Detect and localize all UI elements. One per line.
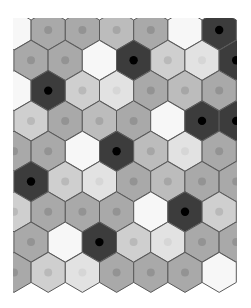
black-dot-icon [95, 238, 103, 246]
center-dot-icon [10, 208, 18, 216]
black-dot-icon [215, 26, 223, 34]
center-dot-icon [164, 178, 172, 186]
center-dot-icon [78, 26, 86, 34]
center-dot-icon [215, 87, 223, 95]
hex-board [0, 0, 251, 308]
center-dot-icon [27, 117, 35, 125]
hex-grid [0, 10, 251, 292]
center-dot-icon [44, 208, 52, 216]
center-dot-icon [130, 238, 138, 246]
center-dot-icon [61, 117, 69, 125]
center-dot-icon [113, 87, 121, 95]
center-dot-icon [78, 208, 86, 216]
center-dot-icon [130, 117, 138, 125]
center-dot-icon [147, 87, 155, 95]
center-dot-icon [78, 268, 86, 276]
center-dot-icon [181, 268, 189, 276]
center-dot-icon [44, 268, 52, 276]
center-dot-icon [147, 147, 155, 155]
center-dot-icon [164, 56, 172, 64]
center-dot-icon [61, 56, 69, 64]
center-dot-icon [27, 56, 35, 64]
black-dot-icon [44, 86, 52, 94]
center-dot-icon [113, 208, 121, 216]
black-dot-icon [112, 147, 120, 155]
black-dot-icon [232, 117, 240, 125]
center-dot-icon [164, 238, 172, 246]
center-dot-icon [95, 178, 103, 186]
center-dot-icon [44, 147, 52, 155]
center-dot-icon [78, 87, 86, 95]
center-dot-icon [130, 178, 138, 186]
center-dot-icon [198, 178, 206, 186]
center-dot-icon [44, 26, 52, 34]
black-dot-icon [181, 208, 189, 216]
center-dot-icon [215, 147, 223, 155]
center-dot-icon [27, 238, 35, 246]
center-dot-icon [113, 26, 121, 34]
center-dot-icon [95, 117, 103, 125]
center-dot-icon [215, 208, 223, 216]
center-dot-icon [113, 268, 121, 276]
black-dot-icon [232, 56, 240, 64]
center-dot-icon [61, 178, 69, 186]
center-dot-icon [10, 147, 18, 155]
center-dot-icon [198, 238, 206, 246]
center-dot-icon [147, 26, 155, 34]
center-dot-icon [181, 147, 189, 155]
center-dot-icon [232, 178, 240, 186]
center-dot-icon [181, 87, 189, 95]
center-dot-icon [10, 268, 18, 276]
black-dot-icon [129, 56, 137, 64]
black-dot-icon [27, 177, 35, 185]
center-dot-icon [147, 268, 155, 276]
center-dot-icon [198, 56, 206, 64]
black-dot-icon [198, 117, 206, 125]
center-dot-icon [232, 238, 240, 246]
